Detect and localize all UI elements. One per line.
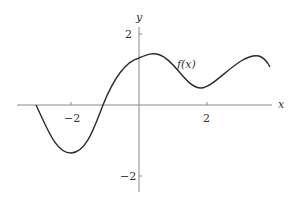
y-tick-label-2: 2 [125,28,132,41]
function-plot: −2 2 2 −2 y x f(x) [0,0,295,202]
x-axis-label: x [278,98,285,111]
x-tick-label-neg2: −2 [64,112,80,125]
x-tick-label-2: 2 [203,112,210,125]
curve-label: f(x) [176,58,196,71]
y-tick-label-neg2: −2 [120,170,136,183]
y-axis-label: y [135,11,143,24]
